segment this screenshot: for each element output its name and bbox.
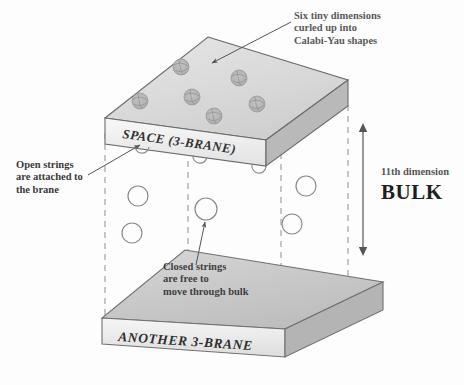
closed-string-loop: [195, 198, 217, 220]
closed-string-loop: [122, 223, 142, 243]
calabi-yau-blob: [249, 96, 265, 112]
bulk-caption: BULK: [381, 180, 443, 205]
calabi-yau-blob: [173, 59, 189, 75]
calabi-yau-blob: [231, 70, 247, 86]
arrow-head-down: [359, 247, 367, 256]
closed-string-loop: [128, 186, 148, 206]
leader-open-strings: [88, 145, 140, 175]
diagram-canvas: ANOTHER 3-BRANE SPACE (3-BRANE): [0, 0, 464, 385]
eleventh-dimension-caption: 11th dimension: [381, 166, 449, 178]
open-strings-note: Open strings are attached to the brane: [16, 159, 83, 196]
closed-string-loop: [282, 214, 302, 234]
calabi-yau-blob: [184, 89, 200, 105]
calabi-yau-note: Six tiny dimensions curled up into Calab…: [294, 10, 381, 47]
calabi-yau-blob: [132, 93, 148, 109]
closed-string-loop: [296, 176, 316, 196]
calabi-yau-blob: [206, 108, 222, 124]
arrow-head-up: [359, 123, 367, 132]
eleventh-dimension-arrow: [359, 123, 367, 256]
closed-strings-group: [122, 176, 316, 243]
closed-strings-note: Closed strings are free to move through …: [163, 261, 249, 298]
